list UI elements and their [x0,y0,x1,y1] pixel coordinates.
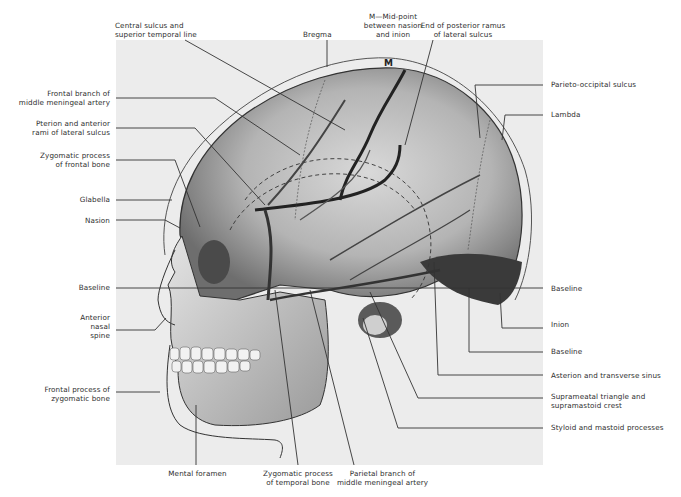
label-mental-foramen: Mental foramen [160,469,235,478]
label-frontal-process-zygomatic: Frontal process of zygomatic bone [45,385,111,403]
skull-illustration: M [116,40,543,465]
label-bregma: Bregma [303,30,332,39]
midpoint-marker: M [384,58,393,68]
label-pterion: Pterion and anterior rami of lateral sul… [32,119,110,137]
label-parietal-branch-mma: Parietal branch of middle meningeal arte… [325,469,440,487]
label-inion: Inion [551,320,569,329]
label-asterion: Asterion and transverse sinus [551,371,661,380]
label-parieto-occipital-sulcus: Parieto-occipital sulcus [551,80,636,89]
label-baseline-left: Baseline [79,283,110,292]
label-glabella: Glabella [80,195,110,204]
label-baseline-right-1: Baseline [551,284,582,293]
label-central-sulcus: Central sulcus and superior temporal lin… [115,21,197,39]
skull-drawing: M [116,40,543,465]
label-posterior-ramus-end: End of posterior ramus of lateral sulcus [413,21,513,39]
label-styloid-mastoid: Styloid and mastoid processes [551,423,664,432]
label-zygomatic-process-frontal: Zygomatic process of frontal bone [40,151,110,169]
label-nasion: Nasion [85,216,110,225]
label-suprameatal-triangle: Suprameatal triangle and supramastoid cr… [551,392,645,410]
label-anterior-nasal-spine: Anterior nasal spine [80,313,110,340]
label-frontal-branch-mma: Frontal branch of middle meningeal arter… [19,89,110,107]
label-lambda: Lambda [551,110,581,119]
label-baseline-right-2: Baseline [551,347,582,356]
